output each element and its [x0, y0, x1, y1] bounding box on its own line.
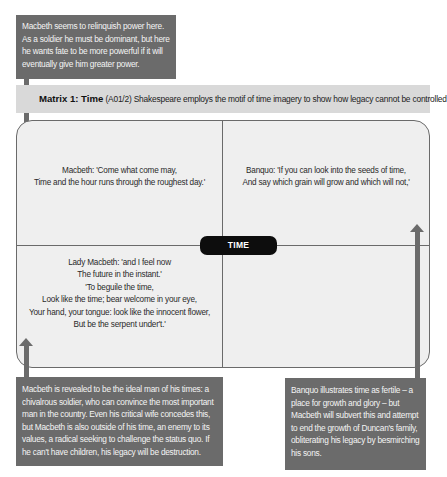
quote-banquo: Banquo: 'If you can look into the seeds … — [223, 165, 429, 190]
arrow-up-line — [415, 232, 420, 379]
quote-line: But be the serpent under't.' — [17, 319, 222, 331]
quote-line: And say which grain will grow and which … — [223, 177, 429, 189]
quote-line: Your hand, your tongue: look like the in… — [17, 307, 222, 319]
quote-line: Look like the time; bear welcome in your… — [17, 294, 222, 306]
quote-line: Time and the hour runs through the rough… — [17, 177, 222, 189]
quote-macbeth: Macbeth: 'Come what come may, Time and t… — [17, 165, 222, 190]
annotation-callout-bottom-right: Banquo illustrates time as fertile – a p… — [285, 378, 426, 470]
center-label-pill: TIME — [200, 236, 277, 255]
quote-lady-macbeth: Lady Macbeth: 'and I feel now The future… — [17, 257, 222, 331]
time-matrix: Macbeth: 'Come what come may, Time and t… — [16, 120, 430, 368]
annotation-callout-bottom-left: Macbeth is revealed to be the ideal man … — [16, 377, 223, 466]
quote-line: Banquo: 'If you can look into the seeds … — [223, 165, 429, 177]
quote-line: Lady Macbeth: 'and I feel now — [17, 257, 222, 269]
quote-line: 'To beguile the time, — [17, 282, 222, 294]
matrix-title: Matrix 1: Time — [39, 93, 103, 104]
annotation-callout-top: Macbeth seems to relinquish power here. … — [16, 15, 176, 79]
arrow-up-icon — [19, 338, 33, 346]
arrow-up-line — [24, 346, 29, 378]
quote-line: The future in the instant.' — [17, 269, 222, 281]
arrow-up-icon — [410, 224, 424, 232]
matrix-description: Shakespeare employs the motif of time im… — [134, 94, 447, 104]
matrix-header: Matrix 1: Time (A01/2) Shakespeare emplo… — [16, 85, 430, 113]
quote-line: Macbeth: 'Come what come may, — [17, 165, 222, 177]
assessment-code: (A01/2) — [105, 94, 131, 104]
